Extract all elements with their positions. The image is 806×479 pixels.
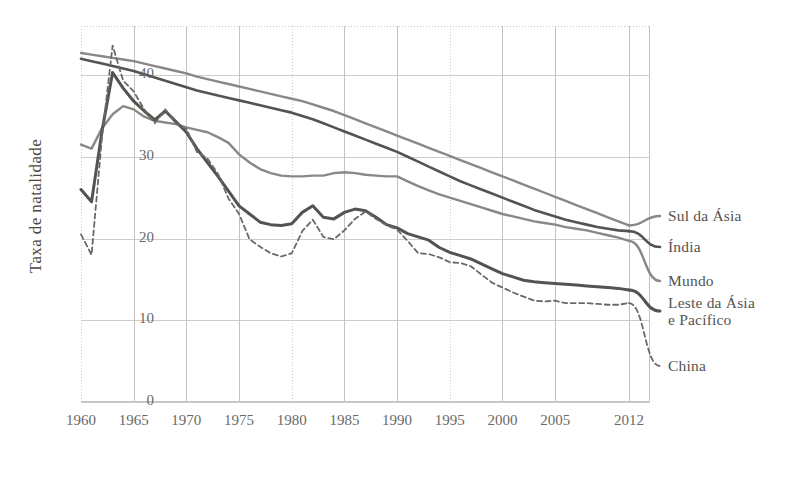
- series-line-3: [81, 73, 629, 290]
- series-line-4: [81, 46, 629, 305]
- x-tick-label: 1970: [156, 412, 216, 429]
- y-tick-label: 0: [114, 392, 154, 409]
- y-axis-title: Taxa de natalidade: [26, 96, 46, 316]
- legend-item-3[interactable]: Leste da Ásia e Pacífico: [668, 294, 755, 328]
- plot-area: [81, 26, 650, 402]
- x-tick-label: 1990: [367, 412, 427, 429]
- gridline-horizontal: [81, 402, 650, 403]
- legend-item-0[interactable]: Sul da Ásia: [668, 207, 742, 224]
- x-tick-label: 2000: [472, 412, 532, 429]
- x-tick-label: 2005: [525, 412, 585, 429]
- y-tick-label: 30: [114, 147, 154, 164]
- y-tick-label: 40: [114, 65, 154, 82]
- x-tick-label: 1965: [104, 412, 164, 429]
- x-tick-label: 1980: [262, 412, 322, 429]
- legend-item-1[interactable]: Índia: [668, 238, 701, 255]
- series-lines: [81, 26, 650, 402]
- y-tick-label: 20: [114, 229, 154, 246]
- legend-item-2[interactable]: Mundo: [668, 272, 714, 289]
- x-tick-label: 2012: [599, 412, 659, 429]
- x-tick-label: 1975: [209, 412, 269, 429]
- y-tick-label: 10: [114, 310, 154, 327]
- series-line-1: [81, 59, 629, 231]
- x-tick-label: 1960: [51, 412, 111, 429]
- legend-item-4[interactable]: China: [668, 357, 706, 374]
- x-tick-label: 1995: [420, 412, 480, 429]
- chart-page: Taxa de natalidade 403020100 19601965197…: [0, 0, 806, 479]
- x-tick-label: 1985: [314, 412, 374, 429]
- series-line-2: [81, 106, 629, 241]
